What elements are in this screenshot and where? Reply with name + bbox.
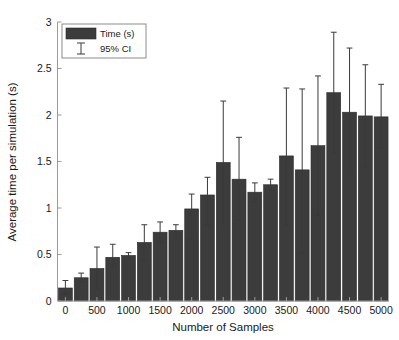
x-tick-label: 5000 [369,304,393,316]
x-tick-label: 500 [88,304,106,316]
bar [264,185,278,301]
legend: Time (s) 95% CI [62,24,146,58]
y-tick-label: 1.5 [37,155,52,167]
x-tick-label: 0 [62,304,68,316]
bar-chart: 0500100015002000250030003500400045005000… [0,0,399,340]
x-tick-label: 2000 [180,304,204,316]
bar [169,230,183,301]
x-tick-label: 3500 [275,304,299,316]
y-tick-label: 2 [46,109,52,121]
legend-label-time: Time (s) [100,28,134,39]
bar [248,192,262,301]
x-tick-label: 4000 [306,304,330,316]
x-tick-label: 3000 [243,304,267,316]
bar [122,255,136,301]
y-tick-label: 1 [46,202,52,214]
legend-label-ci: 95% CI [100,43,131,54]
y-tick-label: 2.5 [37,62,52,74]
y-tick-label: 0.5 [37,248,52,260]
figure-container: 0500100015002000250030003500400045005000… [0,0,399,340]
x-tick-label: 2500 [212,304,236,316]
y-tick-label: 3 [46,16,52,28]
x-tick-label: 4500 [338,304,362,316]
x-tick-label: 1000 [117,304,141,316]
y-axis-title: Average time per simulation (s) [6,82,18,241]
legend-swatch-time [66,28,96,39]
y-tick-label: 0 [46,295,52,307]
x-tick-label: 1500 [148,304,172,316]
x-axis-title: Number of Samples [172,321,274,333]
